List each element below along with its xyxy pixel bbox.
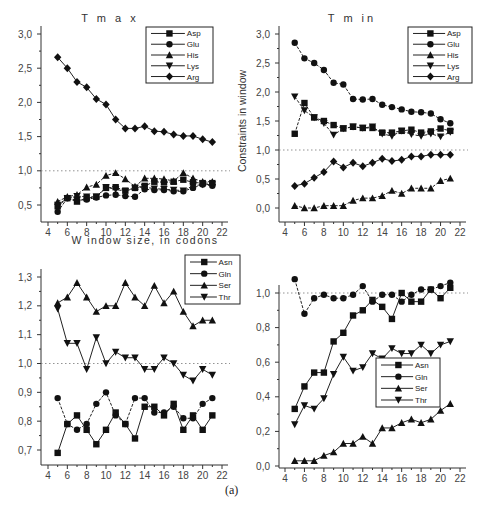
legend-label: Lys <box>187 62 199 71</box>
circle-marker-icon <box>180 415 186 421</box>
x-tick-label: 14 <box>139 470 151 481</box>
y-tick-label: 1,3 <box>18 272 32 283</box>
x-tick-label: 14 <box>377 473 389 484</box>
square-marker-icon <box>437 125 443 131</box>
diamond-marker-icon <box>170 131 177 139</box>
circle-marker-icon <box>199 401 205 407</box>
x-tick-label: 6 <box>65 227 71 238</box>
square-marker-icon <box>350 312 356 318</box>
diamond-marker-icon <box>340 163 347 171</box>
legend-label: Arg <box>447 73 459 82</box>
square-marker-icon <box>54 450 60 456</box>
x-tick-label: 6 <box>65 470 71 481</box>
triangle-down-marker-icon <box>291 421 298 428</box>
legend-label: Ser <box>415 384 428 393</box>
circle-marker-icon <box>74 427 80 433</box>
legend-label: Ser <box>219 281 232 290</box>
square-marker-icon <box>398 290 404 296</box>
square-marker-icon <box>180 427 186 433</box>
y-tick-label: 0,5 <box>256 174 270 185</box>
legend-label: Lys <box>447 62 459 71</box>
y-tick-label: 0,9 <box>18 387 32 398</box>
x-axis-label: W indow size, in codons <box>71 234 218 246</box>
chart-panel-2: 0,00,51,01,52,02,53,046810121416182022T … <box>236 12 472 238</box>
legend: AsnGlnSerThr <box>376 358 440 407</box>
chart-panel-3: 0,70,80,91,01,11,21,346810121416182022As… <box>18 255 240 481</box>
circle-marker-icon <box>93 401 99 407</box>
diamond-marker-icon <box>427 151 434 159</box>
circle-marker-icon <box>398 298 404 304</box>
x-tick-label: 20 <box>197 470 209 481</box>
circle-marker-icon <box>330 295 336 301</box>
x-tick-label: 10 <box>338 473 350 484</box>
diamond-marker-icon <box>379 155 386 163</box>
x-tick-label: 18 <box>416 473 428 484</box>
y-tick-label: 1,0 <box>18 358 32 369</box>
legend-label: Gln <box>415 373 427 382</box>
triangle-up-marker-icon <box>170 288 177 295</box>
circle-marker-icon <box>292 40 298 46</box>
figure-canvas: 0,51,01,52,02,53,046810121416182022T m a… <box>0 0 477 505</box>
triangle-down-marker-icon <box>388 133 395 140</box>
y-tick-label: 0,4 <box>256 391 270 402</box>
circle-marker-icon <box>54 395 60 401</box>
circle-marker-icon <box>311 60 317 66</box>
circle-marker-icon <box>54 209 60 215</box>
triangle-up-marker-icon <box>447 400 454 407</box>
triangle-down-marker-icon <box>369 350 376 357</box>
x-tick-label: 6 <box>302 227 308 238</box>
triangle-up-marker-icon <box>359 433 366 440</box>
square-marker-icon <box>201 259 207 265</box>
diamond-marker-icon <box>310 174 317 182</box>
chart-title: T m in <box>328 12 376 24</box>
square-marker-icon <box>103 427 109 433</box>
diamond-marker-icon <box>437 151 444 159</box>
x-tick-label: 4 <box>282 473 288 484</box>
x-tick-label: 12 <box>357 227 369 238</box>
x-tick-label: 4 <box>282 227 288 238</box>
circle-marker-icon <box>132 395 138 401</box>
triangle-up-marker-icon <box>310 204 317 211</box>
triangle-up-marker-icon <box>379 192 386 199</box>
circle-marker-icon <box>301 311 307 317</box>
square-marker-icon <box>389 316 395 322</box>
y-tick-label: 3,0 <box>18 29 32 40</box>
legend-label: His <box>187 51 199 60</box>
triangle-down-marker-icon <box>427 350 434 357</box>
series-thr <box>54 306 216 385</box>
triangle-up-marker-icon <box>54 299 61 306</box>
triangle-up-marker-icon <box>93 308 100 315</box>
square-marker-icon <box>379 304 385 310</box>
circle-marker-icon <box>112 412 118 418</box>
legend-label: Asn <box>415 361 429 370</box>
series-arg <box>291 151 454 190</box>
triangle-down-marker-icon <box>349 368 356 375</box>
circle-marker-icon <box>122 421 128 427</box>
x-tick-label: 12 <box>120 470 132 481</box>
diamond-marker-icon <box>349 159 356 167</box>
triangle-down-marker-icon <box>180 372 187 379</box>
square-marker-icon <box>141 404 147 410</box>
y-tick-label: 0,5 <box>18 200 32 211</box>
triangle-up-marker-icon <box>131 293 138 300</box>
triangle-up-marker-icon <box>112 169 119 176</box>
triangle-down-marker-icon <box>54 306 61 313</box>
circle-marker-icon <box>330 80 336 86</box>
circle-marker-icon <box>395 373 401 379</box>
x-tick-label: 8 <box>321 473 327 484</box>
circle-marker-icon <box>408 292 414 298</box>
legend-label: Gln <box>219 270 231 279</box>
x-tick-label: 8 <box>321 227 327 238</box>
circle-marker-icon <box>201 270 207 276</box>
triangle-down-marker-icon <box>83 366 90 373</box>
x-tick-label: 4 <box>45 470 51 481</box>
legend-label: Asp <box>447 29 461 38</box>
circle-marker-icon <box>389 104 395 110</box>
square-marker-icon <box>74 412 80 418</box>
x-tick-label: 10 <box>338 227 350 238</box>
square-marker-icon <box>311 369 317 375</box>
circle-marker-icon <box>170 404 176 410</box>
circle-marker-icon <box>301 55 307 61</box>
x-tick-label: 22 <box>454 227 466 238</box>
circle-marker-icon <box>360 283 366 289</box>
